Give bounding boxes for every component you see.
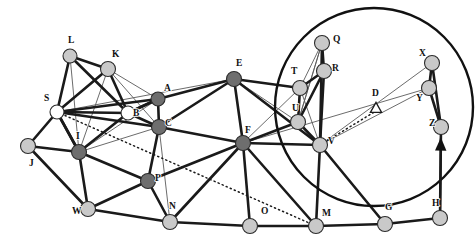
node-label-w: W <box>72 206 82 216</box>
node-label-z: Z <box>429 118 435 128</box>
graph-node-k[interactable] <box>101 62 116 77</box>
graph-edge-thick <box>88 181 148 209</box>
node-label-e: E <box>236 58 242 68</box>
graph-edge-thick <box>148 143 243 181</box>
graph-edge-thick <box>170 143 243 222</box>
node-label-j: J <box>29 158 34 168</box>
graph-node-o[interactable] <box>243 219 258 234</box>
node-label-u: U <box>292 103 299 113</box>
graph-edge-thick <box>316 145 320 226</box>
node-label-f: F <box>245 125 251 135</box>
graph-node-j[interactable] <box>21 139 36 154</box>
node-label-l: L <box>68 35 74 45</box>
thick-edge-layer <box>28 43 441 226</box>
arrow-edge-layer <box>440 138 441 218</box>
arrow-edge-h-to-z <box>440 138 441 218</box>
node-label-p: P <box>155 173 161 183</box>
node-label-n: N <box>169 201 176 211</box>
graph-edge-thick <box>88 209 170 222</box>
graph-node-p[interactable] <box>141 174 156 189</box>
node-label-m: M <box>322 208 331 218</box>
node-label-b: B <box>133 108 140 118</box>
graph-edge-thick <box>243 143 250 226</box>
graph-edge-thick <box>243 143 316 226</box>
graph-edge-thick <box>316 224 385 226</box>
graph-node-m[interactable] <box>309 219 324 234</box>
node-label-t: T <box>291 66 298 76</box>
graph-node-g[interactable] <box>378 217 393 232</box>
node-label-h: H <box>432 198 440 208</box>
graph-node-i[interactable] <box>72 145 87 160</box>
graph-node-f[interactable] <box>236 136 251 151</box>
graph-edge-thick <box>234 79 243 143</box>
graph-node-v[interactable] <box>313 138 328 153</box>
graph-edge-thick <box>243 122 298 143</box>
graph-node-n[interactable] <box>163 215 178 230</box>
node-label-a: A <box>164 83 171 93</box>
node-label-x: X <box>419 48 426 58</box>
graph-node-y[interactable] <box>422 81 437 96</box>
node-label-c: C <box>165 118 172 128</box>
graph-node-l[interactable] <box>63 49 77 63</box>
graph-svg: LKSBACEFIJWPNOMGHQRTUVXYZD <box>0 0 476 245</box>
graph-edge-thick <box>170 222 250 226</box>
node-label-g: G <box>385 202 393 212</box>
diagram-canvas: LKSBACEFIJWPNOMGHQRTUVXYZD <box>0 0 476 245</box>
graph-node-e[interactable] <box>227 72 242 87</box>
graph-node-s[interactable] <box>50 105 64 119</box>
graph-edge-thick <box>79 152 148 181</box>
graph-node-t[interactable] <box>293 81 308 96</box>
graph-node-q[interactable] <box>315 36 330 51</box>
node-label-i: I <box>76 131 80 141</box>
graph-edge-thick <box>385 218 440 224</box>
node-label-v: V <box>328 136 335 146</box>
graph-node-w[interactable] <box>81 202 96 217</box>
graph-node-a[interactable] <box>151 92 165 106</box>
graph-node-z[interactable] <box>434 120 449 135</box>
graph-node-r[interactable] <box>317 64 332 79</box>
node-label-r: R <box>332 63 339 73</box>
node-label-d: D <box>372 88 379 98</box>
graph-node-x[interactable] <box>425 56 440 71</box>
node-label-y: Y <box>416 93 423 103</box>
graph-node-h[interactable] <box>433 211 448 226</box>
graph-edge-thick <box>159 127 243 143</box>
graph-node-u[interactable] <box>291 115 306 130</box>
node-label-s: S <box>44 93 49 103</box>
node-label-o: O <box>261 206 268 216</box>
node-label-q: Q <box>333 34 340 44</box>
node-label-k: K <box>112 49 120 59</box>
